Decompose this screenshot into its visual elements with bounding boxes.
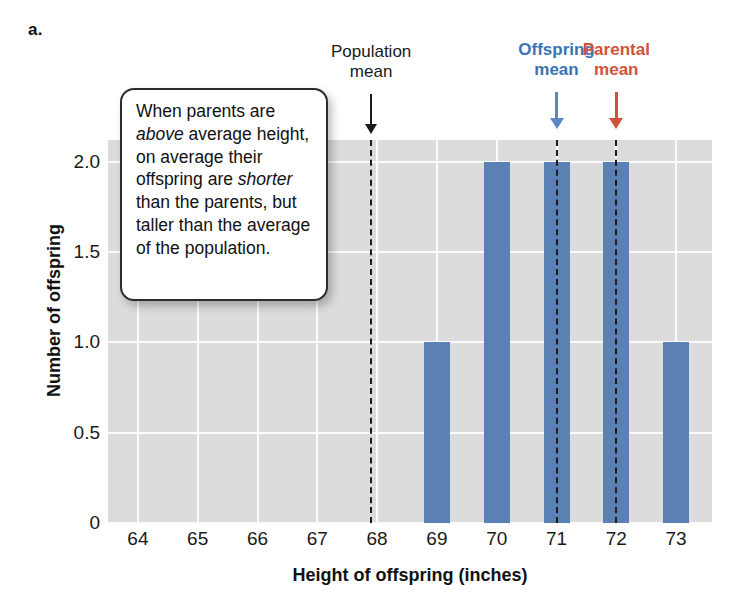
- x-axis-tick-label: 69: [407, 528, 467, 550]
- x-axis-tick-label: 72: [586, 528, 646, 550]
- annotation-label: Parental mean: [546, 40, 686, 80]
- y-axis-title: Number of offspring: [44, 161, 65, 461]
- x-axis-tick-label: 64: [108, 528, 168, 550]
- arrow-shaft: [555, 92, 558, 118]
- callout-text: When parents are above average height, o…: [136, 100, 314, 259]
- x-axis-tick-label: 68: [347, 528, 407, 550]
- x-axis-tick-label: 65: [168, 528, 228, 550]
- arrow-shaft: [370, 94, 372, 124]
- parental-mean-line: [615, 140, 617, 523]
- x-axis-tick-label: 70: [467, 528, 527, 550]
- x-axis-tick-label: 71: [527, 528, 587, 550]
- x-axis-tick-label: 73: [646, 528, 706, 550]
- annotation-population-mean: Population mean: [301, 42, 441, 82]
- arrow-head: [609, 118, 623, 129]
- x-axis-tick-label: 67: [287, 528, 347, 550]
- arrow-shaft: [615, 92, 618, 118]
- arrow-head: [365, 124, 377, 134]
- population-mean-line: [370, 140, 372, 523]
- callout-emphasis: above: [136, 124, 184, 144]
- callout-emphasis: shorter: [238, 169, 292, 189]
- x-axis-title: Height of offspring (inches): [108, 565, 712, 586]
- down-arrow-icon: [609, 92, 623, 129]
- annotation-parental-mean: Parental mean: [546, 40, 686, 80]
- x-axis-tick-label: 66: [228, 528, 288, 550]
- down-arrow-icon: [550, 92, 564, 129]
- y-axis-tick-label: 0: [48, 512, 100, 534]
- down-arrow-icon: [364, 94, 378, 134]
- arrow-head: [550, 118, 564, 129]
- offspring-mean-line: [556, 140, 558, 523]
- annotation-label: Population mean: [301, 42, 441, 82]
- explanatory-callout-box: When parents are above average height, o…: [120, 88, 328, 301]
- panel-letter: a.: [28, 20, 43, 40]
